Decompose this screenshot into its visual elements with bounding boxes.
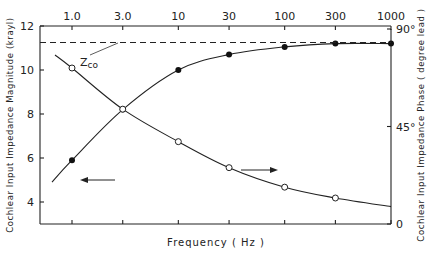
impedance-chart: 1.03.010301003001000121086490°45°0 Zco F… xyxy=(0,0,436,262)
y-left-tick-label: 10 xyxy=(20,64,34,77)
magnitude-point xyxy=(388,41,394,47)
x-tick-label: 1.0 xyxy=(63,10,81,23)
magnitude-point xyxy=(226,52,232,58)
y-right-tick-label: 45° xyxy=(396,121,416,134)
zco-pointer-line xyxy=(90,43,118,55)
y-left-tick-label: 12 xyxy=(20,20,34,33)
y-right-tick-label: 90° xyxy=(396,23,416,36)
y-right-tick-label: 0 xyxy=(396,218,403,231)
x-tick-label: 10 xyxy=(171,10,185,23)
zco-label: Zco xyxy=(80,56,98,70)
phase-point xyxy=(120,106,126,112)
magnitude-point xyxy=(332,41,338,47)
magnitude-curve xyxy=(52,43,391,182)
phase-point xyxy=(282,184,288,190)
x-tick-label: 1000 xyxy=(377,10,405,23)
phase-point xyxy=(226,165,232,171)
magnitude-point xyxy=(282,44,288,50)
y-left-tick-label: 4 xyxy=(27,196,34,209)
phase-point xyxy=(175,139,181,145)
data-curves xyxy=(52,43,391,206)
x-tick-label: 30 xyxy=(222,10,236,23)
x-axis-title: Frequency ( Hz ) xyxy=(167,237,265,248)
right-arrowhead-icon xyxy=(270,167,278,173)
phase-curve xyxy=(55,55,391,207)
left-arrowhead-icon xyxy=(80,177,88,183)
x-tick-label: 300 xyxy=(325,10,346,23)
y-left-axis-title: Cochlear Input Impedance Magnitude (kray… xyxy=(5,17,15,233)
phase-point xyxy=(69,65,75,71)
magnitude-point xyxy=(175,67,181,73)
y-left-tick-label: 8 xyxy=(27,108,34,121)
zco-subscript: co xyxy=(88,60,99,70)
y-left-tick-label: 6 xyxy=(27,152,34,165)
magnitude-point xyxy=(69,157,75,163)
phase-point xyxy=(332,195,338,201)
y-right-axis-title: Cochlear Input Impedance Phase ( degree … xyxy=(416,8,426,241)
x-tick-label: 100 xyxy=(274,10,295,23)
plot-axes xyxy=(40,26,391,224)
data-markers xyxy=(69,41,394,201)
x-tick-label: 3.0 xyxy=(114,10,132,23)
